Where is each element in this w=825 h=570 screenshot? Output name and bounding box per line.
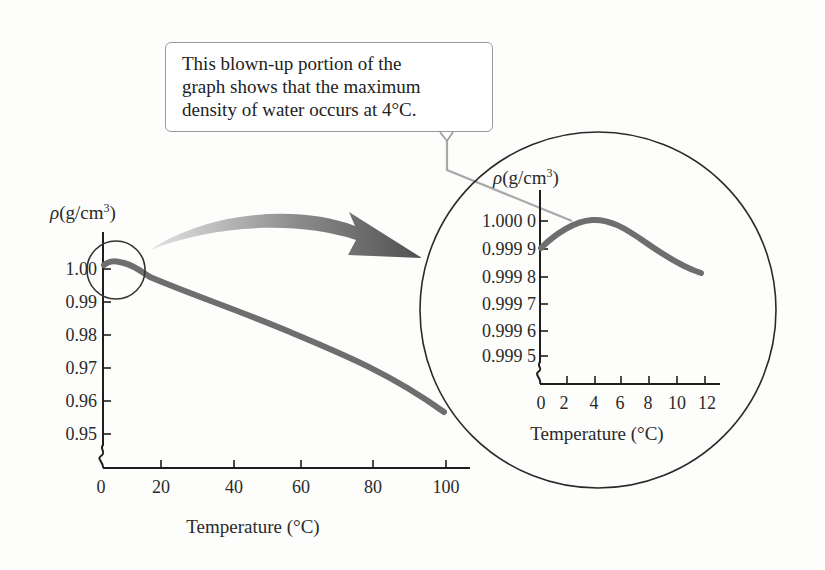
x-tick-label: 0 bbox=[97, 477, 106, 497]
main-y-ticks bbox=[103, 269, 111, 434]
magnify-arrow-icon bbox=[150, 212, 422, 258]
x-tick-label: 8 bbox=[644, 393, 653, 413]
y-tick-label: 0.999 8 bbox=[482, 267, 536, 287]
callout-line: This blown-up portion of the bbox=[182, 52, 478, 75]
x-tick-label: 100 bbox=[433, 477, 460, 497]
main-x-tick-labels: 0 20 40 60 80 100 bbox=[97, 477, 460, 497]
x-tick-label: 80 bbox=[364, 477, 382, 497]
inset-x-ticks bbox=[567, 376, 705, 384]
x-tick-label: 2 bbox=[560, 393, 569, 413]
inset-y-tick-labels: 1.000 0 0.999 9 0.999 8 0.999 7 0.999 6 … bbox=[482, 211, 536, 366]
callout-box: This blown-up portion of the graph shows… bbox=[165, 42, 493, 132]
y-tick-label: 0.95 bbox=[66, 424, 98, 444]
main-density-curve bbox=[104, 261, 444, 412]
x-tick-label: 4 bbox=[590, 393, 599, 413]
y-tick-label: 0.999 5 bbox=[482, 346, 536, 366]
main-x-ticks bbox=[161, 460, 446, 468]
x-tick-label: 10 bbox=[668, 393, 686, 413]
inset-density-curve bbox=[541, 220, 701, 273]
y-tick-label: 0.99 bbox=[66, 292, 98, 312]
y-tick-label: 1.00 bbox=[66, 259, 98, 279]
callout-line: graph shows that the maximum bbox=[182, 75, 478, 98]
y-tick-label: 0.999 6 bbox=[482, 321, 536, 341]
inset-y-axis-label: ρ(g/cm3) bbox=[492, 166, 559, 189]
x-tick-label: 60 bbox=[292, 477, 310, 497]
x-tick-label: 0 bbox=[537, 393, 546, 413]
y-tick-label: 0.999 9 bbox=[482, 239, 536, 259]
x-tick-label: 40 bbox=[225, 477, 243, 497]
y-tick-label: 0.999 7 bbox=[482, 294, 536, 314]
inset-x-tick-labels: 0 2 4 6 8 10 12 bbox=[537, 393, 717, 413]
main-y-axis-label: ρ(g/cm3) bbox=[49, 201, 116, 224]
x-tick-label: 20 bbox=[152, 477, 170, 497]
y-tick-label: 1.000 0 bbox=[482, 211, 536, 231]
callout-line: density of water occurs at 4°C. bbox=[182, 98, 478, 121]
y-tick-label: 0.96 bbox=[66, 391, 98, 411]
x-tick-label: 12 bbox=[698, 393, 716, 413]
inset-x-axis-label: Temperature (°C) bbox=[530, 423, 663, 445]
inset-y-axis bbox=[537, 190, 540, 384]
main-x-axis-label: Temperature (°C) bbox=[186, 516, 319, 538]
callout-pointer bbox=[440, 132, 453, 141]
y-tick-label: 0.97 bbox=[66, 358, 98, 378]
magnified-chart: 1.000 0 0.999 9 0.999 8 0.999 7 0.999 6 … bbox=[420, 132, 776, 488]
x-tick-label: 6 bbox=[616, 393, 625, 413]
y-tick-label: 0.98 bbox=[66, 325, 98, 345]
